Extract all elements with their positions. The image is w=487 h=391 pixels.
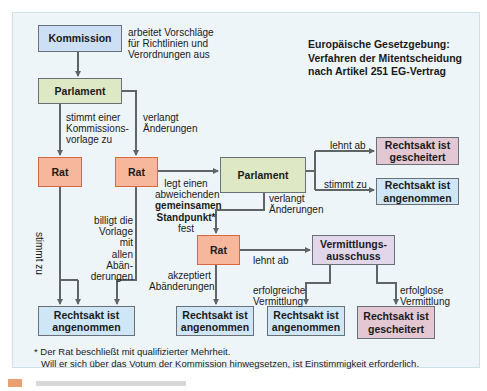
erfolglose-vermittlung-label: erfolglose Vermittlung bbox=[400, 285, 450, 307]
label-line: erfolglose bbox=[400, 285, 450, 296]
label-line: verlangt bbox=[269, 193, 324, 204]
kommission-box: Kommission bbox=[38, 25, 122, 52]
lehnt-ab-label-2: lehnt ab bbox=[253, 255, 289, 266]
vermittlungsausschuss-label: Vermittlungs-ausschuss bbox=[313, 238, 394, 262]
label-line: fest bbox=[155, 223, 217, 234]
rat-box-approve: Rat bbox=[38, 157, 82, 187]
billigt-label: billigt die Vorlage mit allen Abän- deru… bbox=[85, 215, 133, 282]
label-text: stimmt zu bbox=[34, 232, 45, 275]
rechtsakt-gescheitert-label: Rechtsakt ist gescheitert bbox=[358, 310, 434, 334]
gemeinsamer-standpunkt-label: legt einen abweichenden gemeinsamen Stan… bbox=[155, 178, 217, 234]
rechtsakt-angenommen-label: Rechtsakt ist angenommen bbox=[177, 309, 253, 333]
diagram-title: Europäische Gesetzgebung: Verfahren der … bbox=[308, 38, 462, 79]
rat-label: Rat bbox=[52, 166, 69, 178]
label-line: Änderungen bbox=[143, 123, 198, 134]
parlament-box-second-reading: Parlament bbox=[220, 157, 306, 193]
label-line: verlangt bbox=[143, 112, 198, 123]
label-line: Vermittlung bbox=[400, 296, 450, 307]
parlament-label: Parlament bbox=[55, 85, 106, 97]
rechtsakt-angenommen-box-bottom-3: Rechtsakt ist angenommen bbox=[267, 306, 345, 336]
rechtsakt-gescheitert-box-top: Rechtsakt ist gescheitert bbox=[376, 137, 459, 165]
label-text: stimmt zu bbox=[324, 179, 367, 190]
label-text: lehnt ab bbox=[253, 255, 289, 266]
label-text: lehnt ab bbox=[330, 140, 366, 151]
label-line: Abänderungen bbox=[149, 281, 211, 292]
label-line: Vermittlung bbox=[253, 296, 305, 307]
caption-strip-cropped bbox=[0, 376, 487, 391]
lehnt-ab-label-1: lehnt ab bbox=[330, 140, 366, 151]
stimmt-zu-vertical-label: stimmt zu bbox=[34, 232, 45, 275]
label-line: Verordnungen aus bbox=[128, 49, 214, 60]
rat-label: Rat bbox=[128, 166, 145, 178]
label-line: allen Abän- bbox=[85, 249, 133, 271]
rechtsakt-angenommen-label: Rechtsakt ist angenommen bbox=[268, 309, 344, 333]
label-line: legt einen bbox=[155, 178, 217, 189]
label-line: Kommissions- bbox=[66, 123, 129, 134]
label-line: derungen bbox=[85, 271, 133, 282]
label-line: vorlage zu bbox=[66, 134, 129, 145]
stimmt-zu-label-2: stimmt zu bbox=[324, 179, 367, 190]
label-line: für Richtlinien und bbox=[128, 38, 214, 49]
label-line: Standpunkt* bbox=[155, 212, 217, 223]
footnote-line-1: * Der Rat beschließt mit qualifizierter … bbox=[34, 346, 419, 358]
verlangt-aenderungen-label-1: verlangt Änderungen bbox=[143, 112, 198, 134]
stimmt-einer-label: stimmt einer Kommissions- vorlage zu bbox=[66, 112, 129, 146]
label-line: erfolgreiche bbox=[253, 285, 305, 296]
akzeptiert-label: akzeptiert Abänderungen bbox=[149, 270, 211, 292]
label-line: Änderungen bbox=[269, 204, 324, 215]
parlament-box-first-reading: Parlament bbox=[38, 78, 122, 104]
label-line: gemeinsamen bbox=[155, 200, 217, 211]
label-line: Vorlage mit bbox=[85, 226, 133, 248]
rechtsakt-angenommen-box-bottom-1: Rechtsakt ist angenommen bbox=[38, 306, 135, 336]
label-line: billigt die bbox=[85, 215, 133, 226]
label-line: stimmt einer bbox=[66, 112, 129, 123]
rechtsakt-angenommen-box-bottom-2: Rechtsakt ist angenommen bbox=[176, 306, 254, 336]
rechtsakt-gescheitert-label: Rechtsakt ist gescheitert bbox=[377, 139, 458, 163]
erfolgreiche-vermittlung-label: erfolgreiche Vermittlung bbox=[253, 285, 305, 307]
title-line-2: Verfahren der Mitentscheidung bbox=[308, 52, 462, 66]
footnote: * Der Rat beschließt mit qualifizierter … bbox=[34, 346, 419, 370]
rat-box-amendments: Rat bbox=[115, 157, 158, 187]
label-line: abweichenden bbox=[155, 189, 217, 200]
rat-box-third: Rat bbox=[197, 235, 240, 265]
rechtsakt-angenommen-box-right: Rechtsakt ist angenommen bbox=[376, 178, 459, 205]
footnote-line-2: Will er sich über das Votum der Kommissi… bbox=[34, 358, 419, 370]
title-line-3: nach Artikel 251 EG-Vertrag bbox=[308, 65, 462, 79]
title-line-1: Europäische Gesetzgebung: bbox=[308, 38, 462, 52]
verlangt-aenderungen-label-2: verlangt Änderungen bbox=[269, 193, 324, 215]
kommission-note: arbeitet Vorschläge für Richtlinien und … bbox=[128, 27, 214, 61]
rechtsakt-angenommen-label: Rechtsakt ist angenommen bbox=[39, 309, 134, 333]
rechtsakt-angenommen-label: Rechtsakt ist angenommen bbox=[377, 179, 458, 203]
parlament-label: Parlament bbox=[238, 169, 289, 181]
label-line: arbeitet Vorschläge bbox=[128, 27, 214, 38]
rechtsakt-gescheitert-box-bottom: Rechtsakt ist gescheitert bbox=[357, 306, 435, 339]
label-line: akzeptiert bbox=[149, 270, 211, 281]
kommission-label: Kommission bbox=[48, 32, 111, 44]
rat-label: Rat bbox=[210, 244, 227, 256]
vermittlungsausschuss-box: Vermittlungs-ausschuss bbox=[312, 235, 395, 265]
